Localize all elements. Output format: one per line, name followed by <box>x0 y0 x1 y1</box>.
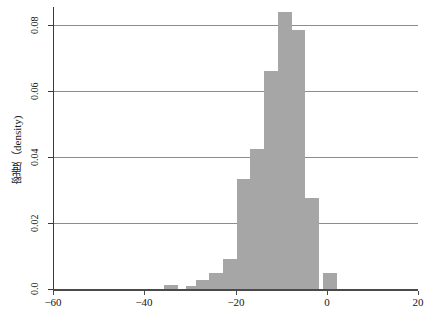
x-tick-mark <box>144 291 145 295</box>
histogram-bar <box>323 273 337 289</box>
histogram-bar <box>264 71 278 289</box>
histogram-bar <box>209 273 223 290</box>
histogram-chart: 密度（density) 0.00.020.040.060.08 −60−40−2… <box>0 0 425 311</box>
x-tick-label: 0 <box>324 296 330 308</box>
x-tick-mark <box>53 291 54 295</box>
x-tick-label: −20 <box>227 296 244 308</box>
histogram-bar <box>196 280 210 289</box>
histogram-bar <box>278 12 292 289</box>
x-tick-label: −40 <box>135 296 152 308</box>
x-tick-mark <box>236 291 237 295</box>
histogram-bar <box>237 179 251 289</box>
bars-layer <box>0 0 425 311</box>
x-tick-mark <box>327 291 328 295</box>
x-tick-label: 20 <box>413 296 424 308</box>
x-tick-label: −60 <box>44 296 61 308</box>
histogram-bar <box>223 259 237 289</box>
x-tick-mark <box>418 291 419 295</box>
histogram-bar <box>250 149 264 289</box>
histogram-bar <box>305 198 319 289</box>
histogram-bar <box>291 30 305 289</box>
